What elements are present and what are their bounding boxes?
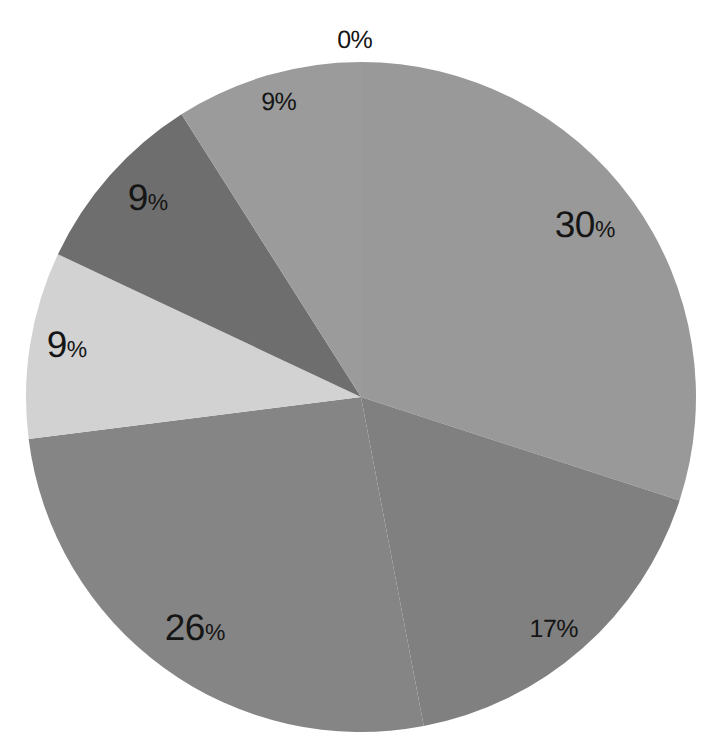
pie-slice-label-percent-sign: % [67, 336, 87, 362]
pie-slice-label-percent-sign: % [556, 615, 578, 643]
pie-slice-label: 9% [47, 326, 87, 363]
pie-slice-label-percent-sign: % [595, 216, 615, 242]
pie-slice-label-value: 0 [337, 26, 350, 54]
pie-slice[interactable] [29, 397, 424, 732]
pie-slice-label: 17% [529, 617, 578, 642]
pie-slice-label-value: 17 [529, 615, 556, 643]
pie-slice-label-value: 9 [47, 324, 67, 365]
pie-slice-label: 26% [165, 609, 226, 646]
pie-chart: 0%30%17%26%9%9%9% [0, 0, 723, 752]
pie-chart-canvas [0, 0, 723, 752]
pie-slice-label: 0% [337, 28, 373, 53]
pie-slice-label-value: 9 [261, 88, 274, 116]
pie-slice-label: 9% [261, 90, 297, 115]
pie-slice-label-percent-sign: % [351, 26, 373, 54]
pie-slice-label: 30% [555, 206, 616, 243]
pie-slice-label: 9% [128, 179, 168, 216]
pie-slice-label-percent-sign: % [148, 189, 168, 215]
pie-slice-label-percent-sign: % [275, 88, 297, 116]
pie-slice-label-value: 30 [555, 204, 595, 245]
pie-slice-label-value: 9 [128, 177, 148, 218]
pie-slice-label-percent-sign: % [205, 619, 225, 645]
pie-slice-group [26, 62, 696, 732]
pie-slice-label-value: 26 [165, 607, 205, 648]
